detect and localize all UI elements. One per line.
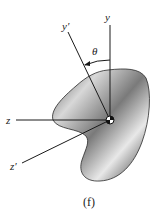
z-prime-axis-label: z′ [9, 160, 17, 172]
theta-label: θ [92, 45, 98, 57]
y-axis-label: y [104, 11, 110, 23]
figure-caption: (f) [83, 195, 95, 209]
z-axis-label: z [5, 114, 11, 126]
theta-arrowhead-icon [84, 61, 90, 66]
centroid-marker-icon [106, 116, 114, 124]
rotated-axes-diagram: y y′ z z′ θ (f) [0, 0, 164, 214]
cross-section-shape [53, 69, 150, 181]
y-prime-axis-label: y′ [61, 20, 70, 32]
